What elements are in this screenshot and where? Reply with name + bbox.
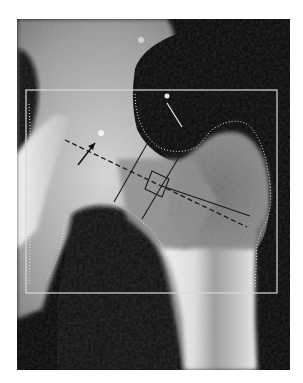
white-marker-dot-top [138, 37, 144, 43]
white-marker-dot-left [98, 130, 104, 136]
texture-noise [17, 19, 290, 370]
dxa-hip-scan-image [17, 19, 290, 370]
white-marker-dot [165, 94, 170, 99]
